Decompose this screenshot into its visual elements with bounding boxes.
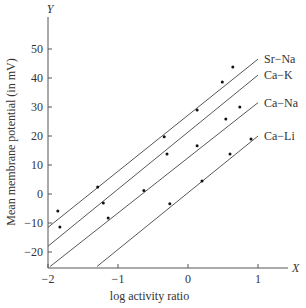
series-label: Ca−Li — [264, 129, 295, 143]
series-label: Ca−Na — [264, 96, 299, 110]
data-point — [238, 106, 241, 109]
data-point — [166, 152, 169, 155]
data-point — [168, 202, 171, 205]
x-tick-label: 1 — [255, 272, 261, 286]
data-point — [196, 108, 199, 111]
x-axis-title: log activity ratio — [110, 289, 189, 303]
series-label: Ca−K — [264, 68, 293, 82]
x-tick-label: −1 — [112, 272, 125, 286]
y-axis-title: Mean membrane potential (in mV) — [4, 58, 18, 225]
series-label: Sr−Na — [264, 52, 296, 66]
data-point — [250, 137, 253, 140]
chart: −2−101−20−1001020304050 Sr−NaCa−KCa−NaCa… — [0, 0, 306, 308]
series-sr-na: Sr−Na — [48, 52, 296, 227]
y-tick-label: 30 — [31, 100, 43, 114]
y-tick-label: −20 — [24, 245, 43, 259]
y-tick-label: 40 — [31, 71, 43, 85]
data-point — [96, 186, 99, 189]
data-point — [231, 65, 234, 68]
series-group: Sr−NaCa−KCa−NaCa−Li — [48, 52, 299, 266]
y-tick-label: 50 — [31, 42, 43, 56]
data-point — [142, 189, 145, 192]
data-point — [107, 217, 110, 220]
regression-line — [48, 59, 258, 227]
data-point — [58, 226, 61, 229]
data-point — [221, 81, 224, 84]
x-tick-label: 0 — [185, 272, 191, 286]
y-tick-label: 0 — [37, 187, 43, 201]
y-tick-label: −10 — [24, 216, 43, 230]
y-axis-letter: Y — [47, 2, 55, 16]
data-point — [201, 179, 204, 182]
data-point — [56, 210, 59, 213]
series-ca-li: Ca−Li — [97, 129, 295, 267]
x-axis-letter: X — [291, 261, 300, 275]
series-ca-k: Ca−K — [48, 68, 293, 246]
axes: −2−101−20−1001020304050 — [24, 17, 288, 286]
y-tick-label: 10 — [31, 158, 43, 172]
data-point — [163, 135, 166, 138]
x-tick-label: −2 — [42, 272, 55, 286]
y-tick-label: 20 — [31, 129, 43, 143]
regression-line — [97, 136, 258, 267]
data-point — [102, 201, 105, 204]
data-point — [196, 144, 199, 147]
data-point — [224, 117, 227, 120]
data-point — [229, 152, 232, 155]
regression-line — [50, 103, 258, 267]
series-ca-na: Ca−Na — [50, 96, 299, 267]
